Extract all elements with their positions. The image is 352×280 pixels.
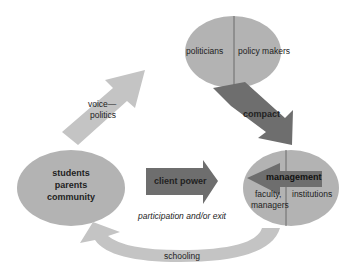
policy-makers-label: policy makers bbox=[238, 47, 290, 57]
management-ellipse bbox=[243, 150, 339, 226]
politics-label: politics bbox=[90, 111, 116, 121]
politicians-label: politicians bbox=[186, 47, 223, 57]
institutions-label: institutions bbox=[292, 190, 332, 200]
students-label: students bbox=[48, 168, 94, 178]
client-power-label: client power bbox=[154, 176, 207, 186]
faculty-label: faculty, bbox=[255, 190, 281, 200]
voice-label: voice— bbox=[88, 100, 116, 110]
community-label: community bbox=[43, 192, 99, 202]
parents-label: parents bbox=[48, 180, 94, 190]
compact-label: compact bbox=[243, 109, 280, 119]
management-label: management bbox=[266, 172, 322, 182]
participation-label: participation and/or exit bbox=[138, 212, 226, 222]
schooling-label: schooling bbox=[164, 252, 200, 262]
managers-label: managers bbox=[251, 201, 289, 211]
diagram-canvas bbox=[0, 0, 352, 280]
